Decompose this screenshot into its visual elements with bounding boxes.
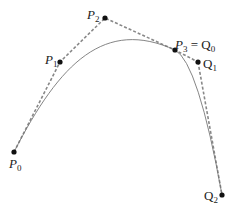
point-label-q1: Q1 xyxy=(203,56,217,73)
point-label-p0: P0 xyxy=(8,156,22,173)
point-label-p3: P3 = Q0 xyxy=(174,37,216,54)
bezier-diagram: P0P1P2P3 = Q0Q1Q2 xyxy=(0,0,234,215)
control-polygon-p xyxy=(14,18,198,152)
point-label-p1: P1 xyxy=(44,52,57,69)
control-point-q1 xyxy=(195,59,200,64)
point-label-p2: P2 xyxy=(86,7,99,24)
control-point-p1 xyxy=(57,59,62,64)
bezier-curve-p xyxy=(14,40,175,152)
control-point-p2 xyxy=(102,15,107,20)
point-label-q2: Q2 xyxy=(204,188,218,205)
control-point-p0 xyxy=(11,149,16,154)
control-point-q2 xyxy=(219,192,224,197)
